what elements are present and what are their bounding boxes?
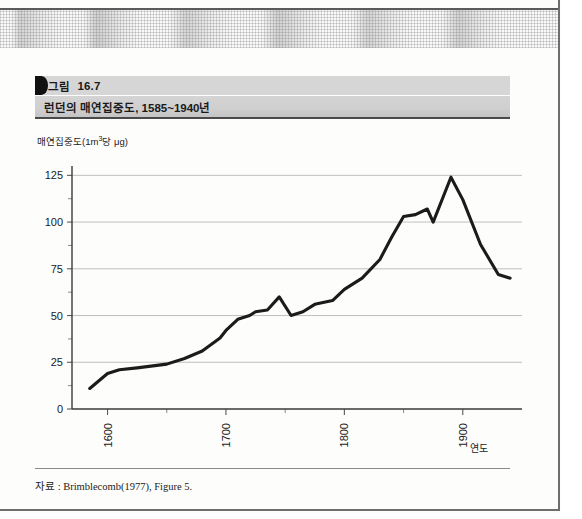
y-tick-label: 50 [51,310,63,322]
chart-plot-svg: 0255075100125 1600170018001900 [0,0,560,470]
y-tick-label: 125 [45,169,63,181]
y-tick-label: 0 [57,403,63,415]
y-tick-label: 25 [51,356,63,368]
x-tick-label: 1700 [220,423,232,447]
figure-page: 그림 16.7 런던의 매연집중도, 1585~1940년 매연집중도(1m3당… [0,0,582,519]
ticks-group [67,175,463,415]
x-axis-label: 연도 [470,440,488,455]
page-right-gutter [562,0,582,519]
x-tick-label: 1600 [102,423,114,447]
smoke-concentration-line [90,177,510,388]
source-divider [35,468,510,469]
y-tick-label: 75 [51,263,63,275]
y-tick-labels-group: 0255075100125 [45,169,63,415]
x-tick-labels-group: 1600170018001900 [102,423,469,447]
y-tick-label: 100 [45,216,63,228]
x-tick-label: 1800 [338,423,350,447]
page-bottom-gutter [0,513,582,519]
x-tick-label: 1900 [457,423,469,447]
source-note: 자료 : Brimblecomb(1977), Figure 5. [35,478,192,493]
chart-container: 매연집중도(1m3당 μg) 0255075100125 16001700180… [0,0,560,470]
gridlines-group [72,175,522,362]
